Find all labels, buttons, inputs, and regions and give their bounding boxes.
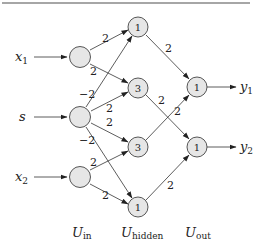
weight-in1-h0: −2	[79, 88, 95, 101]
layer-label-hidden: Uhidden	[121, 225, 163, 241]
edge-in0-h0	[90, 30, 128, 50]
neural-network-diagram: 1 3 3 1 1 1 2 2 −2 2 2 −2 2 2 2 2 2 2 x1…	[0, 0, 272, 245]
weight-in0-h0: 2	[102, 32, 109, 45]
weight-h3-o1: 2	[167, 179, 174, 192]
threshold-h0: 1	[135, 22, 141, 33]
weight-in1-h2: 2	[106, 116, 113, 129]
output-label-y1: y1	[239, 79, 253, 96]
edge-in2-h3	[90, 184, 128, 204]
weight-h0-o0: 2	[165, 42, 172, 55]
output-label-y2: y2	[239, 139, 253, 156]
input-label-x2: x2	[15, 169, 28, 186]
threshold-h2: 3	[135, 142, 141, 153]
input-node-s	[70, 107, 91, 128]
weight-in1-h3: −2	[79, 134, 95, 147]
edge-h3-o1	[146, 155, 189, 200]
threshold-o1: 1	[194, 142, 200, 153]
weight-h1-o1: 2	[158, 94, 165, 107]
input-node-x1	[70, 47, 91, 68]
weight-in0-h1: 2	[90, 65, 97, 78]
input-label-x1: x1	[15, 49, 28, 66]
weight-in2-h2: 2	[90, 156, 97, 169]
weight-in1-h1: 2	[106, 102, 113, 115]
input-node-x2	[70, 167, 91, 188]
weight-h2-o0: 2	[174, 105, 181, 118]
threshold-h1: 3	[135, 83, 141, 94]
layer-label-in: Uin	[72, 225, 92, 241]
threshold-o0: 1	[194, 82, 200, 93]
layer-label-out: Uout	[185, 225, 211, 241]
input-label-s: s	[19, 109, 26, 124]
weight-in2-h3: 2	[102, 189, 109, 202]
threshold-h3: 1	[135, 202, 141, 213]
